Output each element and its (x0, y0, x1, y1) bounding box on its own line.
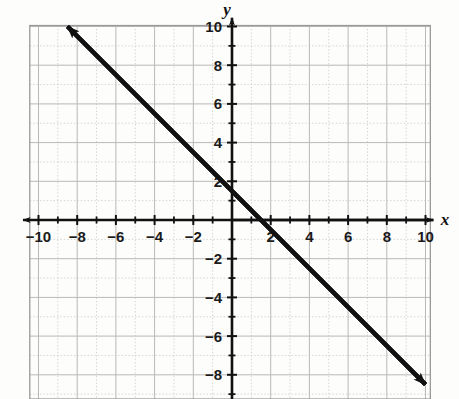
x-tick-label: 8 (383, 228, 391, 245)
coordinate-plane-figure: −10−8−6−4−2246810108642−2−4−6−8 x y (0, 0, 459, 399)
graph-canvas: −10−8−6−4−2246810108642−2−4−6−8 x y (0, 0, 459, 399)
y-tick-label: −8 (205, 366, 222, 383)
x-tick-label: −2 (185, 228, 202, 245)
x-tick-label: −8 (69, 228, 86, 245)
x-tick-label: 6 (344, 228, 352, 245)
x-axis-label: x (440, 210, 450, 229)
grid-major-lines (30, 26, 431, 399)
y-tick-label: −4 (205, 289, 223, 306)
grid-border (30, 26, 431, 399)
y-tick-label: 10 (205, 18, 222, 35)
x-tick-label: 10 (417, 228, 434, 245)
grid-minor-lines (30, 26, 431, 399)
plotted-line (68, 27, 426, 385)
y-axis-label: y (221, 0, 231, 19)
x-tick-label: −4 (146, 228, 164, 245)
y-tick-label: −2 (205, 250, 222, 267)
x-tick-label: 4 (305, 228, 314, 245)
y-tick-label: 4 (214, 134, 223, 151)
axis-lines (23, 18, 433, 399)
y-tick-label: 6 (214, 95, 222, 112)
y-tick-label: −6 (205, 328, 222, 345)
y-tick-label: 8 (214, 57, 222, 74)
x-tick-label: −10 (26, 228, 51, 245)
x-tick-label: −6 (107, 228, 124, 245)
